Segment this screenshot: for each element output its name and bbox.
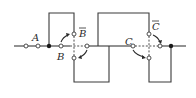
lower-middle-loop xyxy=(74,46,109,82)
label-a: A xyxy=(31,32,39,43)
label-b: B xyxy=(56,51,64,62)
junction-right xyxy=(169,44,173,48)
label-b-bar: B xyxy=(78,28,86,39)
node-b-lower xyxy=(72,56,76,60)
c-lower-arrow xyxy=(133,50,146,59)
junction-left xyxy=(47,44,51,48)
c-upper-arrow xyxy=(153,35,162,44)
label-c-bar: C xyxy=(152,21,160,32)
node-b xyxy=(59,44,63,48)
node-b-bar xyxy=(72,32,76,36)
node-c-right xyxy=(158,44,162,48)
node-a-left xyxy=(24,44,28,48)
b-upper-arrow xyxy=(61,33,70,42)
switch-circuit-diagram: A B B C C xyxy=(0,0,196,98)
node-a-right xyxy=(36,44,40,48)
label-c: C xyxy=(125,36,133,47)
node-c-lower xyxy=(147,56,151,60)
lower-right-loop xyxy=(149,46,171,82)
node-c-bar xyxy=(147,32,151,36)
b-lower-arrow xyxy=(78,50,87,59)
upper-right-loop xyxy=(98,13,149,46)
node-b-right xyxy=(85,44,89,48)
